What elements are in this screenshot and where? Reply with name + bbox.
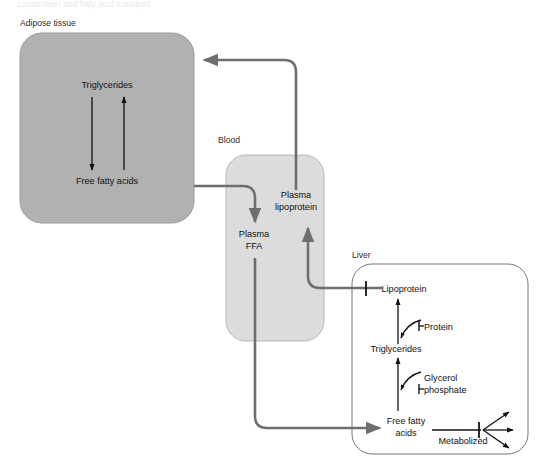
plasma-lipoprotein-label-line2: lipoprotein (275, 202, 317, 212)
adipose-triglycerides-label: Triglycerides (81, 80, 133, 90)
liver-label: Liver (352, 250, 371, 260)
adipose-tissue-box (20, 33, 194, 223)
figure-canvas: Lipoprotein and fatty acid transport Adi… (0, 0, 538, 467)
liver-glycerol-phosphate-label-line2: phosphate (424, 385, 466, 395)
adipose-tissue-compartment: Adipose tissue Triglycerides Free fatty … (20, 18, 194, 223)
adipose-free-fatty-acids-label: Free fatty acids (76, 176, 139, 186)
metabolic-pathway-diagram: Lipoprotein and fatty acid transport Adi… (0, 0, 538, 467)
liver-metabolized-label: Metabolized (438, 436, 487, 446)
liver-lipoprotein-label: Lipoprotein (382, 284, 427, 294)
blood-label: Blood (218, 135, 240, 145)
liver-protein-label: Protein (424, 322, 453, 332)
liver-free-fatty-acids-label-line2: acids (395, 428, 417, 438)
liver-triglycerides-label: Triglycerides (370, 344, 422, 354)
liver-compartment: Liver Lipoprotein Protein Triglycerides … (352, 250, 528, 454)
plasma-ffa-label-line1: Plasma (239, 229, 270, 239)
plasma-ffa-label-line2: FFA (246, 241, 264, 251)
liver-glycerol-phosphate-label-line1: Glycerol (424, 373, 457, 383)
cropped-title-text: Lipoprotein and fatty acid transport (18, 0, 151, 9)
adipose-tissue-label: Adipose tissue (20, 18, 76, 28)
plasma-lipoprotein-label-line1: Plasma (281, 190, 312, 200)
liver-free-fatty-acids-label-line1: Free fatty (387, 416, 426, 426)
liver-box (352, 264, 528, 454)
